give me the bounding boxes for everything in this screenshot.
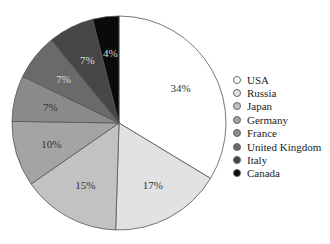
legend-swatch-icon — [233, 169, 241, 177]
legend-item-france: France — [233, 127, 321, 140]
legend-item-japan: Japan — [233, 100, 321, 113]
legend-swatch-icon — [233, 89, 241, 97]
legend-item-usa: USA — [233, 73, 321, 86]
legend-label: Germany — [247, 114, 288, 126]
legend-label: Russia — [247, 87, 276, 99]
slice-label: 7% — [56, 73, 71, 85]
slice-label: 7% — [43, 101, 58, 113]
slice-label: 34% — [170, 82, 190, 94]
legend-swatch-icon — [233, 116, 241, 124]
legend-swatch-icon — [233, 156, 241, 164]
pie-slices — [12, 16, 226, 230]
legend-item-russia: Russia — [233, 86, 321, 99]
legend-label: USA — [247, 74, 269, 86]
legend: USA Russia Japan Germany France United K… — [233, 73, 321, 180]
slice-label: 10% — [41, 138, 61, 150]
legend-label: Japan — [247, 100, 272, 112]
slice-label: 15% — [75, 179, 95, 191]
slice-label: 4% — [103, 47, 118, 59]
legend-item-canada: Canada — [233, 167, 321, 180]
legend-label: Canada — [247, 167, 280, 179]
legend-label: France — [247, 127, 277, 139]
legend-label: United Kingdom — [247, 141, 321, 153]
slice-label: 17% — [143, 179, 163, 191]
legend-swatch-icon — [233, 102, 241, 110]
legend-swatch-icon — [233, 76, 241, 84]
slice-label: 7% — [80, 54, 95, 66]
legend-item-italy: Italy — [233, 153, 321, 166]
legend-item-germany: Germany — [233, 113, 321, 126]
legend-item-united-kingdom: United Kingdom — [233, 140, 321, 153]
legend-label: Italy — [247, 154, 267, 166]
legend-swatch-icon — [233, 129, 241, 137]
legend-swatch-icon — [233, 143, 241, 151]
